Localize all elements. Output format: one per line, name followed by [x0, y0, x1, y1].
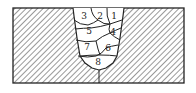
pass-label-8: 8 [95, 57, 101, 67]
pass-label-6: 6 [105, 43, 111, 53]
pass-label-1: 1 [111, 11, 117, 21]
pass-label-5: 5 [86, 26, 92, 36]
pass-label-3: 3 [81, 11, 87, 21]
pass-label-4: 4 [110, 27, 116, 37]
pass-label-2: 2 [97, 11, 103, 21]
pass-label-7: 7 [84, 42, 90, 52]
weld-diagram: 1 2 3 4 5 6 7 8 [0, 0, 196, 93]
